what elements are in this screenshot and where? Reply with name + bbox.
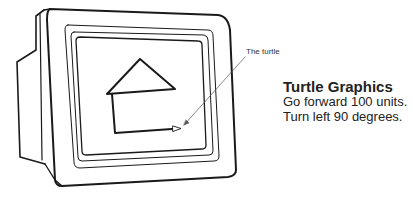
turtle-icon — [173, 126, 181, 132]
caption-line-2: Turn left 90 degrees. — [283, 109, 407, 124]
caption-line-1: Go forward 100 units. — [283, 94, 407, 109]
screen — [76, 37, 206, 155]
turtle-graphics-diagram: The turtle Turtle Graphics Go forward 10… — [0, 0, 413, 199]
turtle-callout-label: The turtle — [246, 47, 280, 56]
screen-frame-outer — [65, 25, 219, 168]
monitor-bezel — [47, 9, 236, 186]
turtle-path-triangle — [107, 59, 175, 94]
caption-title: Turtle Graphics — [283, 79, 407, 94]
caption-block: Turtle Graphics Go forward 100 units. Tu… — [283, 79, 407, 124]
screen-frame-middle — [71, 32, 213, 161]
turtle-path-box — [112, 94, 172, 133]
